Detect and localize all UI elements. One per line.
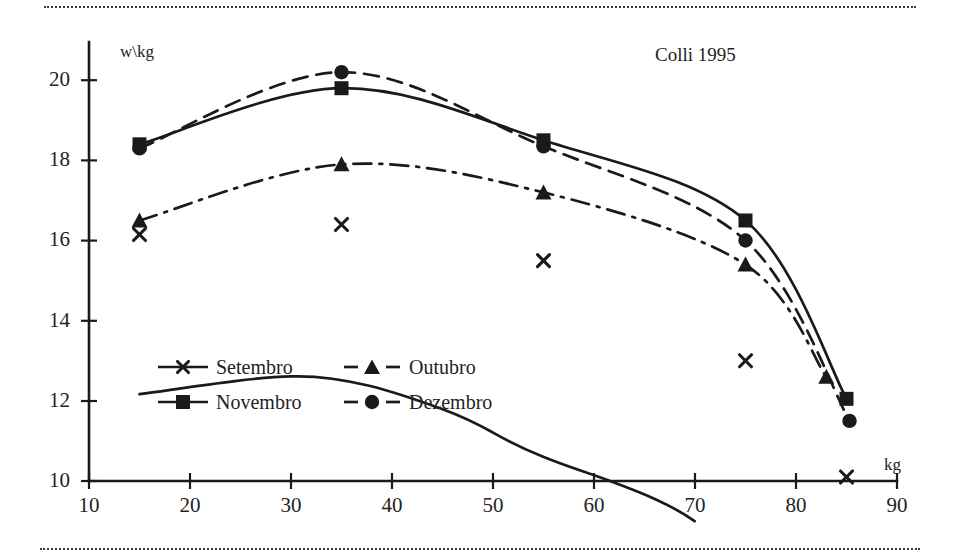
x-tick-label: 60 xyxy=(571,495,617,516)
x-tick-label: 40 xyxy=(369,495,415,516)
x-tick-label: 80 xyxy=(773,495,819,516)
y-tick-label: 12 xyxy=(28,390,70,411)
y-axis-label: w\kg xyxy=(120,43,154,60)
legend-triangle-marker xyxy=(364,360,380,375)
y-tick-label: 14 xyxy=(28,310,70,331)
x-tick-label: 10 xyxy=(66,495,112,516)
legend-circle-marker xyxy=(365,395,379,409)
outubro-line xyxy=(140,164,827,377)
x-axis-label: kg xyxy=(884,456,901,473)
marker-triangle xyxy=(334,156,350,171)
x-tick-label: 30 xyxy=(268,495,314,516)
marker-square xyxy=(335,81,349,95)
marker-x xyxy=(538,255,550,267)
y-tick-label: 16 xyxy=(28,229,70,250)
marker-x xyxy=(134,229,146,241)
legend-item-dezembro: Dezembro xyxy=(409,392,492,412)
markers xyxy=(132,65,857,483)
chart-title: Colli 1995 xyxy=(655,45,736,64)
y-tick-label: 10 xyxy=(28,470,70,491)
marker-triangle xyxy=(738,257,754,272)
outubro-markers xyxy=(132,156,835,383)
marker-circle xyxy=(738,233,752,247)
legend-item-outubro: Outubro xyxy=(409,357,476,377)
marker-square xyxy=(739,213,753,227)
legend-item-setembro: Setembro xyxy=(216,357,293,377)
marker-circle xyxy=(334,65,348,79)
axis-lines xyxy=(89,42,897,481)
marker-x xyxy=(740,355,752,367)
chart-canvas xyxy=(0,0,960,560)
x-tick-label: 70 xyxy=(672,495,718,516)
plot-lines xyxy=(140,72,850,521)
y-tick-label: 20 xyxy=(28,69,70,90)
legend-item-novembro: Novembro xyxy=(216,392,302,412)
x-tick-label: 20 xyxy=(167,495,213,516)
y-tick-label: 18 xyxy=(28,149,70,170)
figure-container: Colli 1995 w\kg kg 20 18 16 14 12 10 10 … xyxy=(0,0,960,560)
marker-x xyxy=(336,218,348,230)
x-tick-label: 90 xyxy=(874,495,920,516)
marker-triangle xyxy=(818,369,834,384)
marker-circle xyxy=(536,139,550,153)
marker-circle xyxy=(132,141,146,155)
legend-square-marker xyxy=(176,395,190,409)
marker-square xyxy=(840,392,854,406)
marker-circle xyxy=(842,414,856,428)
x-tick-label: 50 xyxy=(470,495,516,516)
